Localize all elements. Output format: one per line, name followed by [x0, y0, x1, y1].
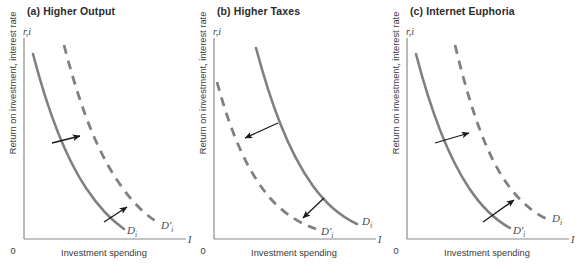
panel-c-plot: r,i I 0 Investment spending D'i Di	[383, 26, 576, 274]
panel-a-label-dashed: D'i	[160, 219, 173, 234]
panel-b-plot: r,i I 0 Investment spending Di D'i	[190, 26, 383, 274]
panel-a-title: (a) Higher Output	[27, 5, 115, 17]
panel-c-x-axis-label: Investment spending	[444, 248, 530, 258]
panel-b-x-axis-tip: I	[377, 234, 382, 245]
panel-c-y-axis-tip: r,i	[406, 26, 414, 37]
panel-b-label-solid: Di	[361, 215, 372, 230]
panel-a-plot: r,i I 0 Investment spending Di D'i	[0, 26, 193, 274]
panel-c-arrow-upper	[435, 133, 469, 143]
panel-b-arrow-upper	[245, 123, 278, 138]
panel-a: (a) Higher Output Return on investment, …	[0, 0, 193, 274]
panel-a-y-axis-tip: r,i	[23, 26, 31, 37]
panel-a-origin-label: 0	[10, 246, 15, 256]
panel-a-arrow-upper	[52, 136, 80, 143]
panel-c-x-axis-tip: I	[570, 234, 575, 245]
panel-b-y-axis-tip: r,i	[213, 26, 221, 37]
panel-b-title: (b) Higher Taxes	[217, 5, 300, 17]
investment-demand-figure: (a) Higher Output Return on investment, …	[0, 0, 578, 274]
panel-c-label-solid: D'i	[512, 224, 525, 239]
panel-b-curve-dashed	[217, 82, 316, 229]
panel-a-curve-dashed	[64, 45, 157, 222]
panel-c-origin-label: 0	[393, 246, 398, 256]
panel-b-arrow-lower	[303, 198, 324, 218]
panel-b: (b) Higher Taxes Return on investment, i…	[190, 0, 383, 274]
panel-a-label-solid: Di	[126, 224, 137, 239]
panel-b-origin-label: 0	[200, 246, 205, 256]
panel-c-label-dashed: Di	[551, 212, 562, 227]
panel-c: (c) Internet Euphoria Return on investme…	[383, 0, 576, 274]
panel-c-curve-dashed	[455, 45, 549, 220]
panel-c-title: (c) Internet Euphoria	[410, 5, 515, 17]
panel-a-curve-solid	[33, 54, 124, 229]
panel-b-label-dashed: D'i	[320, 225, 333, 240]
panel-a-x-axis-label: Investment spending	[61, 248, 147, 258]
panel-b-x-axis-label: Investment spending	[251, 248, 337, 258]
